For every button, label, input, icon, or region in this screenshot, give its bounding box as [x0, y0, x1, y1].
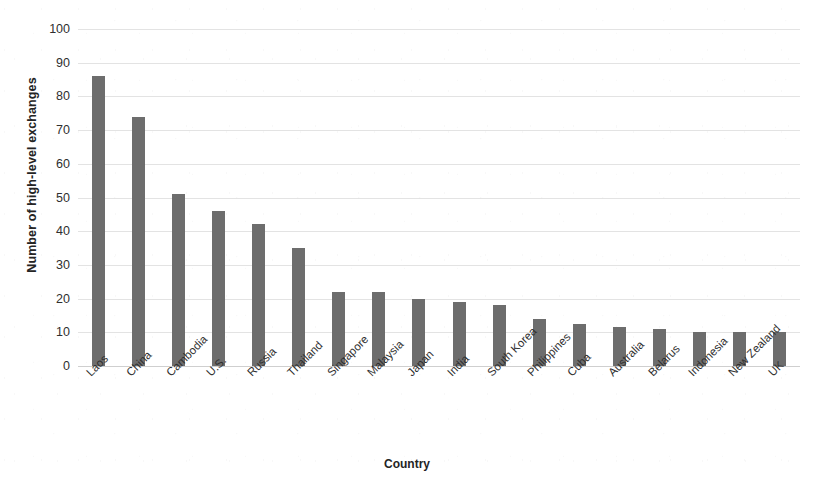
bar [92, 76, 105, 366]
y-axis-tick-labels: 0102030405060708090100 [24, 0, 70, 486]
y-axis-tick-label: 90 [24, 56, 70, 70]
bar-chart: Number of high-level exchanges 010203040… [0, 0, 814, 486]
bar [172, 194, 185, 366]
y-axis-tick-label: 70 [24, 123, 70, 137]
plot-area [78, 29, 800, 366]
y-axis-tick-label: 20 [24, 292, 70, 306]
bars-layer [78, 29, 800, 366]
x-axis-tick-labels: LaosChinaCambodiaU.S.RussiaThailandSinga… [78, 370, 800, 456]
x-axis-title: Country [0, 457, 814, 471]
y-axis-tick-label: 10 [24, 325, 70, 339]
y-axis-tick-label: 40 [24, 224, 70, 238]
y-axis-tick-label: 30 [24, 258, 70, 272]
bar [292, 248, 305, 366]
y-axis-tick-label: 80 [24, 89, 70, 103]
y-axis-tick-label: 50 [24, 191, 70, 205]
y-axis-tick-label: 0 [24, 359, 70, 373]
y-axis-tick-label: 100 [24, 22, 70, 36]
bar [212, 211, 225, 366]
y-axis-tick-label: 60 [24, 157, 70, 171]
bar [252, 224, 265, 366]
bar [132, 117, 145, 366]
